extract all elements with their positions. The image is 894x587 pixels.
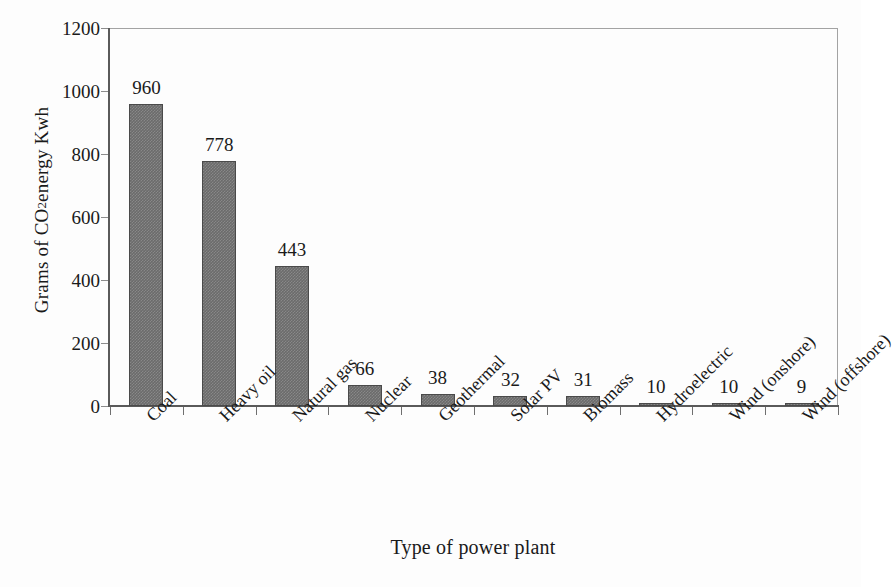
y-axis-tick-label: 800: [48, 145, 100, 164]
bar-group: 960: [110, 28, 183, 406]
bar-value-label: 32: [501, 370, 520, 389]
y-axis-tick-label: 1000: [48, 82, 100, 101]
bar-value-label: 778: [205, 135, 234, 154]
x-axis-category-labels: CoalHeavy oilNatural gasNuclearGeotherma…: [110, 412, 838, 522]
bar-group: 778: [183, 28, 256, 406]
x-axis-tick-mark: [838, 407, 839, 415]
y-axis-tick-label: 400: [48, 271, 100, 290]
y-axis-tick-label: 200: [48, 334, 100, 353]
y-axis-tick-label: 1200: [48, 19, 100, 38]
x-axis-title: Type of power plant: [108, 536, 838, 559]
bar-value-label: 38: [428, 368, 447, 387]
bar-value-label: 10: [719, 377, 738, 396]
bar-value-label: 10: [646, 377, 665, 396]
bar-group: 38: [401, 28, 474, 406]
bar-group: 32: [474, 28, 547, 406]
bar-value-label: 9: [797, 377, 807, 396]
bar-value-label: 31: [574, 370, 593, 389]
bar: [129, 104, 163, 406]
y-axis-tick-label: 600: [48, 208, 100, 227]
bar-group: 10: [620, 28, 693, 406]
bar-group: 31: [547, 28, 620, 406]
y-axis-tick-labels: 020040060080010001200: [48, 0, 100, 587]
bar: [275, 266, 309, 406]
bar-group: 66: [328, 28, 401, 406]
y-axis-tick-label: 0: [48, 397, 100, 416]
bar-value-label: 443: [278, 240, 307, 259]
bar: [202, 161, 236, 406]
bar-group: 443: [256, 28, 329, 406]
bar-value-label: 960: [132, 78, 161, 97]
